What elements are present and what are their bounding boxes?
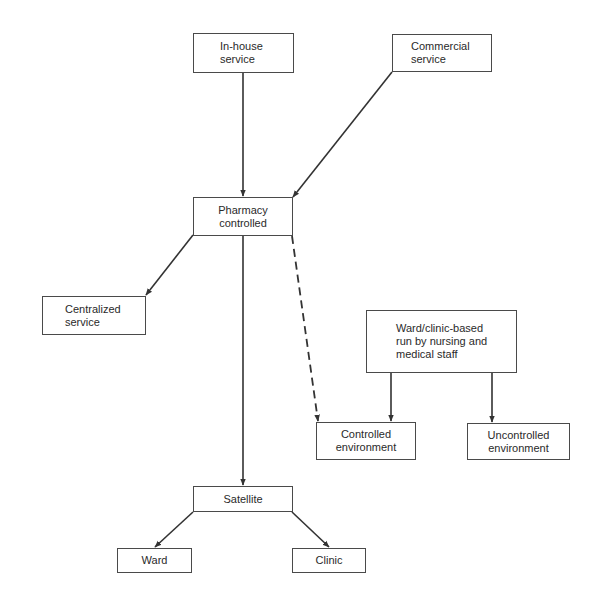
node-in-house-service: In-house service bbox=[193, 33, 294, 73]
node-pharmacy-controlled: Pharmacy controlled bbox=[193, 197, 293, 236]
node-label: Pharmacy controlled bbox=[218, 204, 268, 230]
edge-commercial-to-pharmacy bbox=[293, 72, 392, 197]
node-controlled-environment: Controlled environment bbox=[316, 422, 416, 460]
node-uncontrolled-environment: Uncontrolled environment bbox=[467, 423, 570, 460]
edge-satellite-to-ward bbox=[155, 512, 193, 547]
node-label: Uncontrolled environment bbox=[488, 429, 550, 455]
node-label: Controlled environment bbox=[336, 428, 397, 454]
node-label: Ward bbox=[142, 554, 168, 567]
node-ward-clinic-based: Ward/clinic-based run by nursing and med… bbox=[366, 310, 517, 373]
node-label: Ward/clinic-based run by nursing and med… bbox=[396, 322, 487, 361]
node-centralized-service: Centralized service bbox=[42, 296, 146, 335]
node-ward: Ward bbox=[117, 548, 192, 573]
edge-satellite-to-clinic bbox=[292, 512, 329, 547]
node-label: Clinic bbox=[316, 554, 343, 567]
edge-pharmacy-to-controlled-dashed bbox=[292, 236, 318, 421]
diagram-canvas: In-house service Commercial service Phar… bbox=[0, 0, 589, 606]
node-label: Commercial service bbox=[411, 40, 470, 66]
node-label: In-house service bbox=[220, 40, 263, 66]
edge-pharmacy-to-centralized bbox=[146, 235, 193, 295]
node-satellite: Satellite bbox=[193, 486, 293, 512]
node-label: Satellite bbox=[223, 493, 262, 506]
node-clinic: Clinic bbox=[292, 548, 366, 573]
node-label: Centralized service bbox=[65, 303, 121, 329]
node-commercial-service: Commercial service bbox=[392, 34, 492, 72]
